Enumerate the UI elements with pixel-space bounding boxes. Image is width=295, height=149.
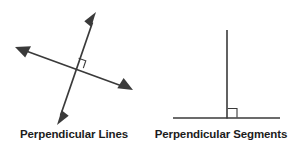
right-angle-marker (228, 109, 237, 118)
diagram-perpendicular-lines (0, 0, 148, 128)
figure-root: Perpendicular Lines Perpendicular Segmen… (0, 0, 295, 149)
arrowhead-lower-left (57, 110, 69, 125)
line-shallow (15, 46, 133, 90)
arrowhead-lower-right (117, 78, 133, 90)
caption-perpendicular-lines: Perpendicular Lines (0, 128, 148, 140)
panel-perpendicular-segments: Perpendicular Segments (147, 0, 295, 149)
diagram-perpendicular-segments (147, 0, 295, 128)
panel-perpendicular-lines: Perpendicular Lines (0, 0, 148, 149)
line-steep (57, 12, 96, 125)
caption-perpendicular-segments: Perpendicular Segments (147, 128, 295, 140)
arrowhead-upper-right (84, 12, 96, 27)
